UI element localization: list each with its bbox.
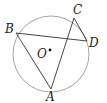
label-A: A — [45, 90, 55, 103]
segment-CD — [74, 18, 87, 41]
segment-BA — [16, 33, 51, 89]
segment-BD — [16, 33, 87, 41]
label-C: C — [73, 3, 82, 17]
diagram: B C D O A — [0, 0, 107, 103]
label-O: O — [37, 47, 47, 61]
center-point — [49, 49, 52, 52]
circle — [13, 16, 89, 92]
segment-AC — [51, 18, 74, 89]
label-D: D — [88, 36, 99, 50]
label-B: B — [4, 22, 14, 36]
geometry-figure: B C D O A — [0, 0, 107, 103]
